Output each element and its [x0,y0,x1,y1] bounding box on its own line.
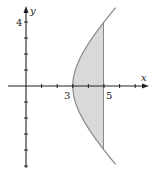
hyperbola-diagram: x y 3 5 4 [0,0,155,172]
x-axis-arrow-icon [142,84,149,89]
x-tick-label-5: 5 [106,90,112,101]
y-axis-arrow-icon [24,6,29,13]
x-axis-label: x [141,72,147,83]
y-tick-label-4: 4 [16,17,22,28]
x-tick-label-3: 3 [64,90,70,101]
y-axis-label: y [29,5,36,16]
